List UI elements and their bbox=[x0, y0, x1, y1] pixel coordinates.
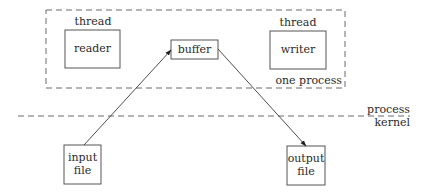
process-kernel-diagram: one process thread reader buffer thread … bbox=[0, 0, 427, 192]
reader-thread-heading: thread bbox=[75, 15, 112, 28]
buffer-label: buffer bbox=[178, 43, 212, 56]
one-process-label: one process bbox=[275, 74, 342, 87]
reader-label: reader bbox=[74, 42, 112, 55]
input-file-label-line2: file bbox=[74, 164, 91, 177]
writer-thread-heading: thread bbox=[280, 16, 317, 29]
writer-label: writer bbox=[281, 43, 316, 56]
process-side-label: process bbox=[367, 103, 410, 116]
output-file-label-line1: output bbox=[288, 152, 325, 165]
input-file-label-line1: input bbox=[68, 151, 98, 164]
output-file-label-line2: file bbox=[297, 165, 314, 178]
kernel-side-label: kernel bbox=[374, 116, 410, 129]
